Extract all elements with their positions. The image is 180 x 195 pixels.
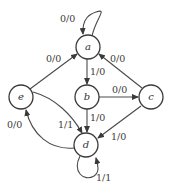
label-c-a: 0/0: [110, 53, 125, 64]
edge-d-d: [77, 156, 98, 178]
state-e: e: [9, 85, 33, 109]
label-d-d: 1/1: [96, 172, 111, 183]
state-b: b: [75, 85, 99, 109]
state-a-label: a: [85, 41, 91, 52]
edge-a-a: [83, 11, 101, 36]
label-e-a: 0/0: [46, 53, 61, 64]
label-c-d: 1/0: [111, 131, 126, 142]
label-a-a: 0/0: [60, 13, 75, 24]
state-e-label: e: [18, 91, 24, 102]
label-b-d: 1/0: [90, 112, 105, 123]
state-diagram: 0/0 1/0 0/0 0/0 0/0 1/0 1/0 1/1 0/0 1/1 …: [0, 0, 180, 195]
state-b-label: b: [84, 91, 90, 102]
label-d-e: 0/0: [7, 119, 22, 130]
label-b-c: 0/0: [112, 84, 127, 95]
state-d-label: d: [83, 139, 89, 150]
label-e-d: 1/1: [58, 119, 73, 130]
state-c: c: [139, 85, 163, 109]
label-a-b: 1/0: [90, 66, 105, 77]
state-c-label: c: [148, 91, 154, 102]
state-a: a: [76, 35, 100, 59]
state-d: d: [74, 133, 98, 157]
